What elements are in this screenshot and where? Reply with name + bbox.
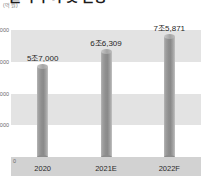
bar-top-cap [37,64,48,69]
x-axis-strip: 0 2020 2021E 2022F [11,157,201,176]
bar-2020 [37,67,48,157]
bar-value-label: 5조7,000 [17,54,69,64]
x-axis-label-2020: 2020 [23,164,63,173]
bar-top-cap [101,49,112,54]
chart-screenshot: 실적 추이 및 전망 (억 원) 80,000 60,000 40,000 20… [0,0,211,182]
bar-2022f [164,37,175,157]
unit-label: (억 원) [3,2,18,8]
chart-title: 실적 추이 및 전망 [8,0,107,3]
bar-value-label: 7조5,871 [143,24,195,34]
bar-2021e [101,52,112,157]
bar-value-label: 6조6,309 [80,39,132,49]
y-axis-tick-label: 80,000 [0,27,9,33]
y-axis-tick-label: 20,000 [0,122,9,128]
bar-top-cap [164,34,175,39]
x-axis-label-2022f: 2022F [149,164,189,173]
x-axis-label-2021e: 2021E [86,164,126,173]
y-axis-tick-label: 60,000 [0,59,9,65]
plot-area: 80,000 60,000 40,000 20,000 5조7,000 6조6,… [11,30,201,157]
y-axis-tick-label: 40,000 [0,91,9,97]
y-axis-zero-label: 0 [13,158,16,164]
